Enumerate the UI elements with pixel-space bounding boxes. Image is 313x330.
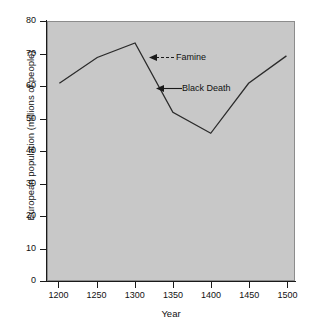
y-axis-tick [40, 86, 47, 87]
x-axis-tick [58, 281, 59, 288]
x-axis-tick-label: 1450 [232, 291, 266, 300]
x-axis-title: Year [47, 308, 295, 319]
y-axis-tick [40, 216, 47, 217]
x-axis-tick-label: 1500 [270, 291, 304, 300]
x-axis-tick [97, 281, 98, 288]
y-axis-title: European population (millions of people) [25, 21, 36, 251]
y-axis-tick [40, 151, 47, 152]
x-axis-tick [249, 281, 250, 288]
annotation-black-death-label: Black Death [182, 83, 231, 93]
y-axis-tick [40, 184, 47, 185]
annotation-famine-label: Famine [176, 52, 206, 62]
chart-figure: 01020304050607080 1200125013001350140014… [0, 0, 313, 330]
x-axis-tick-label: 1250 [80, 291, 114, 300]
x-axis-tick-label: 1300 [118, 291, 152, 300]
x-axis-tick [211, 281, 212, 288]
x-axis-line [46, 281, 296, 282]
x-axis-tick-label: 1400 [194, 291, 228, 300]
x-axis-tick [135, 281, 136, 288]
x-axis-tick [287, 281, 288, 288]
x-axis-tick [173, 281, 174, 288]
y-axis-tick [40, 21, 47, 22]
y-axis-tick-label: 0 [14, 276, 36, 285]
black-death-arrow-icon [156, 83, 183, 94]
y-axis-tick [40, 119, 47, 120]
famine-arrow-icon [149, 52, 177, 63]
y-axis-tick [40, 54, 47, 55]
x-axis-tick-label: 1200 [41, 291, 75, 300]
y-axis-tick [40, 249, 47, 250]
y-axis-tick [40, 281, 47, 282]
x-axis-tick-label: 1350 [156, 291, 190, 300]
